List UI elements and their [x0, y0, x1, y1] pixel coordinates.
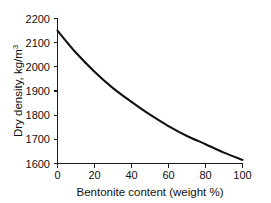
y-axis-title-group: Dry density, kg/m3: [11, 45, 24, 137]
y-tick-label-2200: 2200: [26, 13, 50, 25]
y-tick-label-1600: 1600: [26, 158, 50, 170]
x-tick-label-100: 100: [233, 169, 251, 181]
x-tick-label-40: 40: [125, 169, 137, 181]
x-tick-label-80: 80: [199, 169, 211, 181]
y-tick-label-2000: 2000: [26, 61, 50, 73]
y-axis-title: Dry density, kg/m3: [11, 45, 24, 137]
y-tick-label-1800: 1800: [26, 109, 50, 121]
dry-density-line-chart: 2200 2100 2000 1900 1800 1700 1600 0 20 …: [0, 0, 271, 203]
x-tick-label-60: 60: [162, 169, 174, 181]
y-tick-label-1700: 1700: [26, 133, 50, 145]
y-axis-title-superscript: 3: [11, 45, 20, 49]
x-axis-title: Bentonite content (weight %): [76, 186, 223, 198]
chart-figure: 2200 2100 2000 1900 1800 1700 1600 0 20 …: [0, 0, 271, 203]
y-tick-label-2100: 2100: [26, 37, 50, 49]
y-axis-title-main: Dry density, kg/m: [12, 49, 24, 137]
x-tick-label-20: 20: [88, 169, 100, 181]
x-tick-label-0: 0: [54, 169, 60, 181]
y-tick-label-1900: 1900: [26, 85, 50, 97]
